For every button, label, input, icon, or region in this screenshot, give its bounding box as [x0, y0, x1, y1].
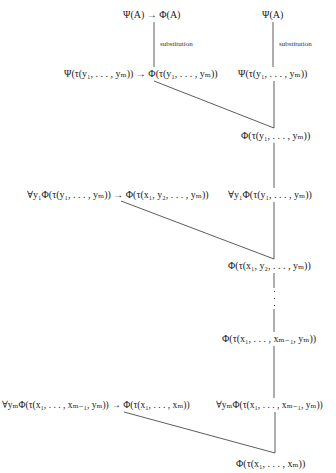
node-row2-right: Ψ(τ(y₁, . . . , yₘ)) [238, 68, 307, 80]
edge-mp1-diagonal [154, 81, 274, 128]
node-row4-right: ∀yₘΦ(τ(x₁, . . . , xₘ₋₁, yₘ)) [216, 399, 323, 411]
node-top-left: Ψ(A) → Φ(A) [123, 9, 180, 21]
node-top-right: Ψ(A) [262, 9, 283, 21]
edge-mp2-diagonal [121, 201, 274, 259]
node-row3-right: ∀y₁Φ(τ(y₁, . . . , yₘ)) [228, 189, 312, 201]
node-result2: Φ(τ(x₁, y₂, . . . , yₘ)) [228, 260, 311, 272]
edge-mpm-diagonal [124, 412, 275, 453]
node-row3-left: ∀y₁Φ(τ(y₁, . . . , yₘ)) → Φ(τ(x₁, y₂, . … [27, 189, 209, 201]
node-row4-left: ∀yₘΦ(τ(x₁, . . . , xₘ₋₁, yₘ)) → Φ(τ(x₁, … [2, 399, 190, 411]
node-result3: Φ(τ(x₁, . . . , xₘ₋₁, yₘ)) [222, 333, 316, 345]
node-result1: Φ(τ(y₁, . . . , yₘ)) [241, 130, 310, 142]
label-substitution-left: substitution [160, 40, 193, 48]
ellipsis-dot [274, 298, 275, 299]
ellipsis-dot [274, 291, 275, 292]
ellipsis-dot [274, 305, 275, 306]
node-row2-left: Ψ(τ(y₁, . . . , yₘ)) → Φ(τ(y₁, . . . , y… [64, 68, 218, 80]
label-substitution-right: substitution [279, 40, 312, 48]
node-final: Φ(τ(x₁, . . . , xₘ)) [236, 458, 305, 470]
